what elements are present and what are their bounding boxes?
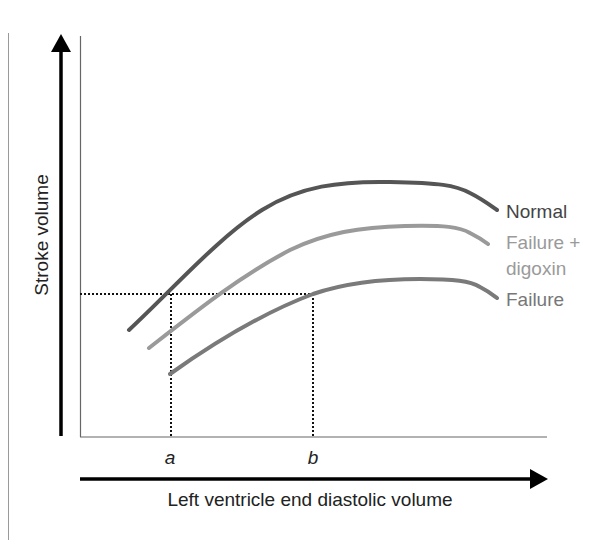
series-label-failure: Failure	[506, 289, 564, 310]
series-label-digoxin-line2: digoxin	[506, 258, 566, 279]
series-label-digoxin-line1: Failure +	[506, 232, 580, 253]
y-axis-label: Stroke volume	[31, 174, 52, 295]
curve-failure-digoxin	[149, 226, 488, 348]
tick-label-a: a	[165, 447, 176, 468]
x-axis-arrow	[80, 469, 548, 489]
tick-label-b: b	[308, 447, 319, 468]
series-label-normal: Normal	[506, 201, 567, 222]
reference-lines	[80, 294, 313, 437]
frank-starling-diagram: Stroke volume a b Left ventricle end dia…	[0, 0, 612, 540]
arrow-up-icon	[51, 34, 71, 52]
x-axis-label: Left ventricle end diastolic volume	[167, 489, 452, 510]
arrow-right-icon	[530, 469, 548, 489]
y-axis-arrow	[51, 34, 71, 436]
